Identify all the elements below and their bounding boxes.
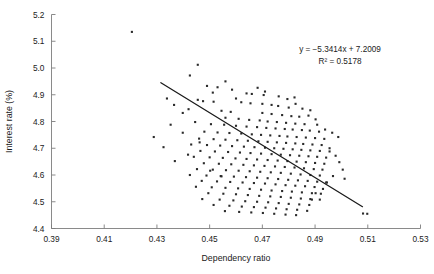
y-tick-label: 4.4 <box>33 224 45 234</box>
scatter-point <box>250 211 252 213</box>
x-tick-label: 0.45 <box>202 234 219 244</box>
scatter-point <box>209 156 211 158</box>
scatter-point <box>217 131 219 133</box>
scatter-point <box>315 118 317 120</box>
scatter-point <box>222 157 224 159</box>
scatter-point <box>233 176 235 178</box>
scatter-point <box>294 123 296 125</box>
scatter-point <box>256 158 258 160</box>
scatter-point <box>210 123 212 125</box>
scatter-point <box>285 214 287 216</box>
scatter-chart: 4.44.54.64.74.84.95.05.15.2 0.390.410.43… <box>0 0 434 274</box>
scatter-point <box>261 112 263 114</box>
scatter-point <box>293 166 295 168</box>
scatter-point <box>245 176 247 178</box>
scatter-point <box>236 139 238 141</box>
scatter-point <box>263 94 265 96</box>
y-axis-title: Interest rate (%) <box>4 90 14 153</box>
scatter-point <box>274 165 276 167</box>
scatter-point <box>308 204 310 206</box>
scatter-point <box>224 187 226 189</box>
scatter-point <box>342 169 344 171</box>
scatter-point <box>267 141 269 143</box>
scatter-point <box>270 171 272 173</box>
scatter-point <box>271 189 273 191</box>
scatter-point <box>287 179 289 181</box>
scatter-point <box>213 204 215 206</box>
regression-equation: y = −5.3414x + 7.2009 <box>299 45 381 54</box>
scatter-point <box>267 120 269 122</box>
scatter-point <box>296 209 298 211</box>
scatter-point <box>187 154 189 156</box>
x-tick-label: 0.41 <box>96 234 113 244</box>
scatter-point <box>304 185 306 187</box>
scatter-point <box>235 97 237 99</box>
scatter-point <box>259 171 261 173</box>
scatter-point <box>202 100 204 102</box>
scatter-point <box>231 145 233 147</box>
scatter-point <box>313 186 315 188</box>
scatter-point <box>203 131 205 133</box>
scatter-point <box>290 115 292 117</box>
scatter-point <box>314 162 316 164</box>
scatter-point <box>300 197 302 199</box>
scatter-point <box>206 85 208 87</box>
scatter-point <box>294 185 296 187</box>
scatter-point <box>303 167 305 169</box>
scatter-point <box>269 134 271 136</box>
y-tick-label: 5.2 <box>33 10 45 20</box>
scatter-point <box>217 86 219 88</box>
scatter-point <box>274 183 276 185</box>
scatter-point <box>214 150 216 152</box>
scatter-point <box>227 151 229 153</box>
scatter-point <box>311 199 313 201</box>
scatter-point <box>259 119 261 121</box>
scatter-point <box>309 130 311 132</box>
scatter-point <box>291 191 293 193</box>
scatter-point <box>225 169 227 171</box>
scatter-point <box>316 124 318 126</box>
scatter-point <box>262 212 264 214</box>
scatter-point <box>232 199 234 201</box>
scatter-point <box>298 203 300 205</box>
scatter-point <box>182 132 184 134</box>
scatter-point <box>321 169 323 171</box>
scatter-point <box>362 212 364 214</box>
x-tick-label: 0.49 <box>307 234 324 244</box>
scatter-point <box>281 190 283 192</box>
scatter-point <box>286 135 288 137</box>
scatter-point <box>237 187 239 189</box>
scatter-point <box>318 131 320 133</box>
scatter-point <box>193 156 195 158</box>
scatter-point <box>277 178 279 180</box>
scatter-point <box>319 150 321 152</box>
scatter-point <box>153 136 155 138</box>
scatter-point <box>285 142 287 144</box>
scatter-point <box>282 148 284 150</box>
scatter-point <box>203 162 205 164</box>
scatter-point <box>294 142 296 144</box>
scatter-point <box>290 173 292 175</box>
scatter-point <box>258 195 260 197</box>
y-tick-label: 4.9 <box>33 90 45 100</box>
scatter-point <box>198 138 200 140</box>
scatter-point <box>211 186 213 188</box>
scatter-point <box>238 170 240 172</box>
scatter-point <box>281 114 283 116</box>
scatter-point <box>305 161 307 163</box>
scatter-point <box>174 160 176 162</box>
scatter-point <box>247 140 249 142</box>
x-tick-label: 0.53 <box>412 234 429 244</box>
scatter-point <box>273 147 275 149</box>
scatter-point <box>218 163 220 165</box>
scatter-point <box>284 128 286 130</box>
scatter-point <box>201 180 203 182</box>
scatter-point <box>267 177 269 179</box>
scatter-point <box>280 172 282 174</box>
scatter-point <box>314 137 316 139</box>
y-tick-label: 4.6 <box>33 170 45 180</box>
scatter-point <box>213 101 215 103</box>
scatter-point <box>298 155 300 157</box>
scatter-point <box>131 31 133 33</box>
y-tick-label: 4.7 <box>33 143 45 153</box>
